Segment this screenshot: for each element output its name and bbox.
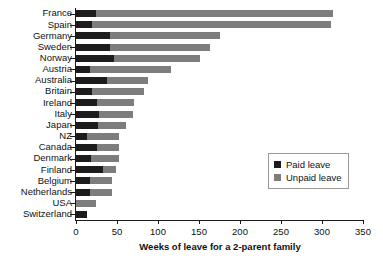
bar-segment-unpaid bbox=[92, 21, 331, 28]
bar-segment-unpaid bbox=[114, 55, 200, 62]
y-axis-label-germany: Germany bbox=[0, 31, 72, 41]
bar-segment-unpaid bbox=[91, 155, 119, 162]
paid-leave-swatch-icon bbox=[274, 161, 281, 168]
bar-segment-unpaid bbox=[110, 44, 209, 51]
bar-row bbox=[76, 99, 363, 106]
bar-segment-unpaid bbox=[103, 166, 116, 173]
x-tick-label-0: 0 bbox=[73, 226, 78, 237]
bar-segment-paid bbox=[76, 122, 98, 129]
y-axis-label-canada: Canada bbox=[0, 142, 72, 152]
y-axis-label-japan: Japan bbox=[0, 120, 72, 130]
y-axis-label-spain: Spain bbox=[0, 20, 72, 30]
stacked-bar-chart: FranceSpainGermanySwedenNorwayAustriaAus… bbox=[0, 0, 383, 266]
bar-segment-paid bbox=[76, 133, 87, 140]
bar-segment-paid bbox=[76, 32, 110, 39]
x-tick-0 bbox=[76, 220, 77, 224]
bar-segment-unpaid bbox=[96, 10, 333, 17]
bar-row bbox=[76, 77, 363, 84]
legend-item-unpaid-leave: Unpaid leave bbox=[274, 171, 341, 184]
legend-item-paid-leave: Paid leave bbox=[274, 158, 341, 171]
x-tick-label-200: 200 bbox=[232, 226, 248, 237]
bar-segment-paid bbox=[76, 99, 97, 106]
x-tick-150 bbox=[199, 220, 200, 224]
bar-row bbox=[76, 66, 363, 73]
bar-row bbox=[76, 55, 363, 62]
x-tick-50 bbox=[117, 220, 118, 224]
bar-row bbox=[76, 211, 363, 218]
bar-row bbox=[76, 32, 363, 39]
y-axis-label-britain: Britain bbox=[0, 86, 72, 96]
bar-segment-unpaid bbox=[97, 144, 119, 151]
bar-segment-unpaid bbox=[92, 88, 144, 95]
y-axis-label-france: France bbox=[0, 8, 72, 18]
bar-row bbox=[76, 200, 363, 207]
bar-segment-unpaid bbox=[87, 133, 118, 140]
x-axis-line bbox=[76, 220, 364, 221]
bar-segment-unpaid bbox=[90, 189, 112, 196]
y-axis-label-italy: Italy bbox=[0, 109, 72, 119]
bar-segment-paid bbox=[76, 21, 92, 28]
bar-row bbox=[76, 88, 363, 95]
bar-row bbox=[76, 21, 363, 28]
x-tick-350 bbox=[363, 220, 364, 224]
y-axis-label-nz: NZ bbox=[0, 131, 72, 141]
bar-segment-paid bbox=[76, 55, 114, 62]
bar-row bbox=[76, 122, 363, 129]
x-tick-label-100: 100 bbox=[150, 226, 166, 237]
bar-segment-paid bbox=[76, 155, 91, 162]
legend-label-unpaid-leave: Unpaid leave bbox=[286, 172, 341, 183]
bar-segment-unpaid bbox=[97, 99, 134, 106]
y-axis-label-netherlands: Netherlands bbox=[0, 187, 72, 197]
y-axis-label-usa: USA bbox=[0, 198, 72, 208]
bar-segment-unpaid bbox=[98, 122, 126, 129]
bar-segment-paid bbox=[76, 166, 103, 173]
x-tick-label-250: 250 bbox=[273, 226, 289, 237]
bar-segment-paid bbox=[76, 66, 90, 73]
x-tick-label-150: 150 bbox=[191, 226, 207, 237]
x-tick-label-50: 50 bbox=[112, 226, 123, 237]
x-tick-100 bbox=[158, 220, 159, 224]
bar-segment-paid bbox=[76, 144, 97, 151]
bar-segment-paid bbox=[76, 111, 99, 118]
y-axis-label-australia: Australia bbox=[0, 75, 72, 85]
bar-row bbox=[76, 10, 363, 17]
bar-segment-paid bbox=[76, 10, 96, 17]
bar-segment-unpaid bbox=[110, 32, 220, 39]
x-tick-label-350: 350 bbox=[355, 226, 371, 237]
unpaid-leave-swatch-icon bbox=[274, 174, 281, 181]
bar-row bbox=[76, 133, 363, 140]
bar-segment-paid bbox=[76, 77, 107, 84]
x-tick-label-300: 300 bbox=[314, 226, 330, 237]
y-axis-label-belgium: Belgium bbox=[0, 176, 72, 186]
bar-segment-paid bbox=[76, 44, 110, 51]
bar-segment-unpaid bbox=[99, 111, 133, 118]
bar-segment-unpaid bbox=[107, 77, 148, 84]
bar-row bbox=[76, 111, 363, 118]
y-axis-label-sweden: Sweden bbox=[0, 42, 72, 52]
y-axis-label-switzerland: Switzerland bbox=[0, 209, 72, 219]
legend-label-paid-leave: Paid leave bbox=[286, 159, 330, 170]
bar-row bbox=[76, 44, 363, 51]
y-axis-category-labels: FranceSpainGermanySwedenNorwayAustriaAus… bbox=[0, 8, 72, 220]
y-axis-label-norway: Norway bbox=[0, 53, 72, 63]
y-axis-label-denmark: Denmark bbox=[0, 153, 72, 163]
bar-segment-unpaid bbox=[90, 66, 171, 73]
bar-segment-paid bbox=[76, 189, 90, 196]
y-axis-label-austria: Austria bbox=[0, 64, 72, 74]
bar-segment-paid bbox=[76, 88, 92, 95]
bar-segment-unpaid bbox=[90, 177, 112, 184]
chart-legend: Paid leave Unpaid leave bbox=[268, 153, 349, 189]
x-tick-250 bbox=[281, 220, 282, 224]
y-axis-label-finland: Finland bbox=[0, 165, 72, 175]
bar-segment-paid bbox=[76, 177, 90, 184]
bar-row bbox=[76, 144, 363, 151]
bar-segment-paid bbox=[76, 211, 87, 218]
x-axis-title: Weeks of leave for a 2-parent family bbox=[76, 241, 364, 253]
y-axis-label-ireland: Ireland bbox=[0, 98, 72, 108]
x-tick-300 bbox=[322, 220, 323, 224]
bar-segment-unpaid bbox=[76, 200, 96, 207]
bar-row bbox=[76, 189, 363, 196]
x-tick-200 bbox=[240, 220, 241, 224]
